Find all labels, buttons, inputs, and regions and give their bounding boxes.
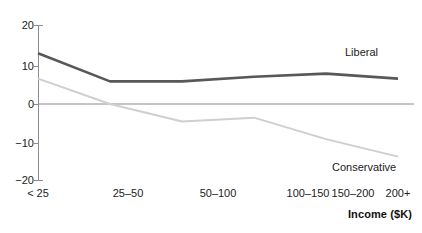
x-tick-label-0: < 25 [0, 187, 83, 199]
series-label-liberal: Liberal [345, 46, 378, 58]
x-tick-label-1: 25–50 [83, 187, 173, 199]
series-label-conservative: Conservative [332, 161, 396, 173]
chart-container: 20 10 0 −10 −20 < 25 25–50 50–100 100–15… [0, 0, 422, 233]
x-axis-title: Income ($K) [348, 208, 412, 220]
series-line-conservative [38, 79, 398, 157]
x-tick-label-2: 50–100 [173, 187, 263, 199]
x-tick-label-5: 200+ [353, 187, 422, 199]
series-line-liberal [38, 53, 398, 81]
